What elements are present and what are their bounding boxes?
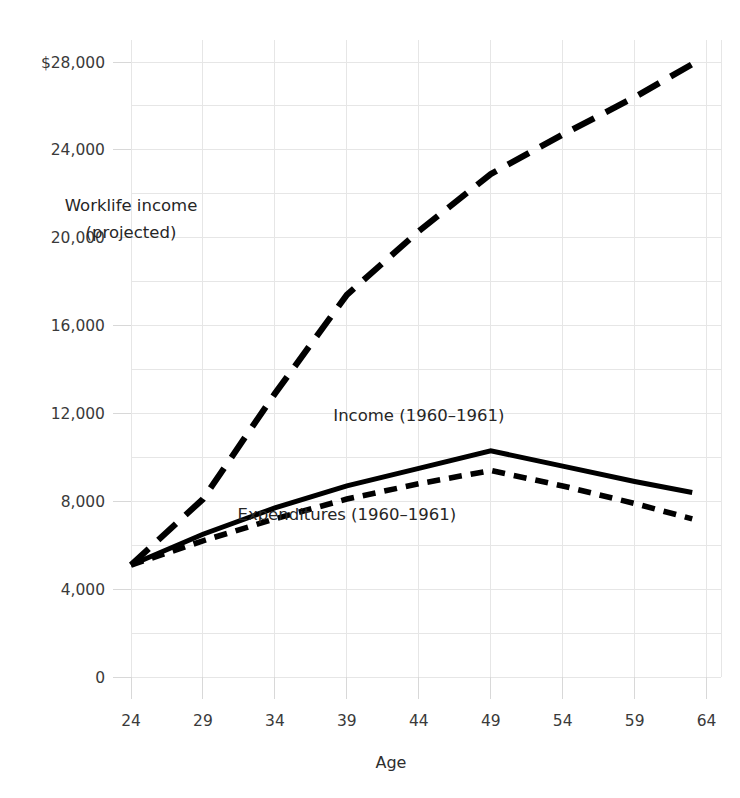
x-axis-tick-labels: 242934394449545964 bbox=[121, 712, 716, 730]
series-line-1 bbox=[131, 64, 692, 565]
x-tick-label: 59 bbox=[625, 712, 645, 730]
data-series-group bbox=[131, 64, 692, 565]
x-tick-label: 49 bbox=[481, 712, 501, 730]
y-tick-label: 4,000 bbox=[61, 581, 105, 599]
x-tick-label: 64 bbox=[697, 712, 717, 730]
series-annotation-income: Income (1960–1961) bbox=[333, 406, 504, 425]
x-tick-label: 34 bbox=[265, 712, 285, 730]
x-axis-tickmarks bbox=[131, 677, 707, 699]
series-annotation-worklife-line2: (projected) bbox=[86, 223, 177, 242]
series-annotation-expenditures: Expenditures (1960–1961) bbox=[237, 505, 456, 524]
y-tick-label: 16,000 bbox=[51, 317, 105, 335]
x-tick-label: 24 bbox=[121, 712, 141, 730]
y-tick-label: 0 bbox=[95, 669, 105, 687]
line-chart: 04,0008,00012,00016,00020,00024,000$28,0… bbox=[0, 0, 740, 798]
y-tick-label: 12,000 bbox=[51, 405, 105, 423]
y-axis-tickmarks bbox=[113, 62, 131, 677]
minor-gridlines bbox=[131, 106, 721, 633]
x-axis-title: Age bbox=[376, 753, 407, 772]
y-tick-label: $28,000 bbox=[41, 54, 105, 72]
series-annotation-worklife: Worklife income bbox=[65, 196, 198, 215]
x-tick-label: 54 bbox=[553, 712, 573, 730]
x-tick-label: 44 bbox=[409, 712, 429, 730]
major-gridlines bbox=[131, 40, 721, 677]
x-tick-label: 29 bbox=[193, 712, 213, 730]
y-tick-label: 8,000 bbox=[61, 493, 105, 511]
x-tick-label: 39 bbox=[337, 712, 357, 730]
y-axis-tick-labels: 04,0008,00012,00016,00020,00024,000$28,0… bbox=[41, 54, 105, 687]
y-tick-label: 24,000 bbox=[51, 141, 105, 159]
chart-page: 04,0008,00012,00016,00020,00024,000$28,0… bbox=[0, 0, 740, 798]
